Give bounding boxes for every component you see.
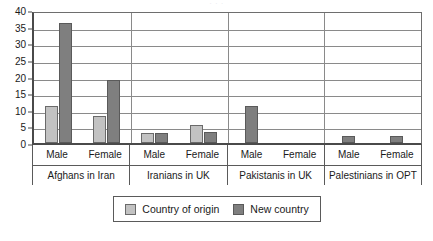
x-axis-sex-label: Female [178,145,226,165]
bar-newc [342,136,355,143]
x-axis-group-label: Iranians in UK [130,165,226,186]
x-axis-group: MaleFemaleIranians in UK [129,145,226,185]
bar-group [228,13,325,143]
x-axis-group: MaleFemalePalestinians in OPT [324,145,422,185]
y-tick-label: 40 [15,7,26,17]
x-axis-group: MaleFemaleAfghans in Iran [32,145,129,185]
bar-origin [190,125,203,143]
x-axis-labels: MaleFemaleAfghans in IranMaleFemaleIrani… [32,145,422,185]
legend-item: New country [233,203,308,215]
bar-group [131,13,228,143]
bar-group [324,13,421,143]
bar-newc [390,136,403,143]
bar-pair [34,13,82,143]
bar-pair [179,13,227,143]
x-axis-sex-label: Male [130,145,178,165]
bar-pair [131,13,179,143]
legend-label: Country of origin [142,203,219,215]
y-tick-label: 30 [15,40,26,50]
bar-origin [141,133,154,143]
x-axis-sex-row: MaleFemale [325,145,421,165]
x-axis-group: MaleFemalePakistanis in UK [227,145,324,185]
bar-pair [373,13,421,143]
chart-title-remnant: · · · [0,0,433,8]
plot-wrapper [32,12,422,145]
x-axis-sex-label: Male [228,145,276,165]
x-axis-sex-row: MaleFemale [130,145,226,165]
y-tick-label: 10 [15,107,26,117]
bar-newc [155,133,168,143]
bar-pair [82,13,130,143]
y-tick-label: 5 [20,123,26,133]
bar-newc [204,132,217,143]
bar-group [34,13,131,143]
x-axis-group-label: Palestinians in OPT [325,165,421,186]
legend-item: Country of origin [125,203,219,215]
x-axis-group-label: Afghans in Iran [33,165,129,186]
x-axis-sex-label: Female [81,145,129,165]
y-tick-label: 35 [15,24,26,34]
bar-chart: · · · 0510152025303540 MaleFemaleAfghans… [0,0,433,241]
y-tick-label: 0 [20,140,26,150]
bar-pair [324,13,372,143]
bar-newc [59,23,72,143]
legend-swatch-icon [125,204,136,215]
y-axis: 0510152025303540 [0,5,30,145]
x-axis-sex-row: MaleFemale [33,145,129,165]
plot-area [32,12,422,145]
bar-pair [228,13,276,143]
bar-newc [107,80,120,143]
y-tick-label: 15 [15,90,26,100]
bar-origin [93,116,106,143]
x-axis-sex-label: Male [33,145,81,165]
legend-label: New country [250,203,308,215]
x-axis-sex-label: Female [373,145,421,165]
legend-swatch-icon [233,204,244,215]
bar-groups [34,13,421,143]
x-axis-sex-label: Female [276,145,324,165]
x-axis-sex-row: MaleFemale [228,145,324,165]
bar-origin [45,106,58,143]
x-axis-group-label: Pakistanis in UK [228,165,324,186]
y-tick-label: 20 [15,74,26,84]
chart-legend: Country of originNew country [113,196,321,222]
bar-newc [245,106,258,143]
bar-pair [276,13,324,143]
y-tick-label: 25 [15,57,26,67]
x-axis-sex-label: Male [325,145,373,165]
